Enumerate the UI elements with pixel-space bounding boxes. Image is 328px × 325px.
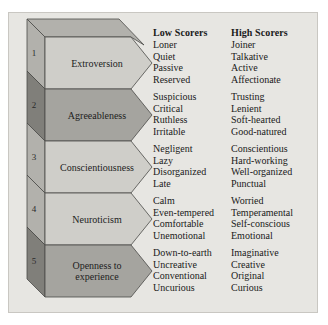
trait-label-agreeableness: Agreeableness xyxy=(49,110,145,121)
trait-word: Original xyxy=(231,270,279,282)
trait-label-neuroticism: Neuroticism xyxy=(49,214,145,225)
trait-word: Well-organized xyxy=(231,166,292,178)
trait-word: Late xyxy=(153,178,206,190)
trait-word: Talkative xyxy=(231,51,281,63)
trait-word: Active xyxy=(231,62,281,74)
low-scorer-list-neuroticism: CalmEven-temperedComfortableUnemotional xyxy=(153,195,214,241)
trait-word: Negligent xyxy=(153,143,206,155)
column-header-low-scorers: Low Scorers xyxy=(153,27,208,38)
trait-word: Quiet xyxy=(153,51,190,63)
trait-number-5: 5 xyxy=(27,256,41,266)
trait-word: Good-natured xyxy=(231,126,287,138)
trait-word: Curious xyxy=(231,282,279,294)
low-scorer-list-agreeableness: SuspiciousCriticalRuthlessIrritable xyxy=(153,91,196,137)
trait-label-conscientiousness: Conscientiousness xyxy=(49,162,145,173)
low-scorer-list-conscientiousness: NegligentLazyDisorganizedLate xyxy=(153,143,206,189)
trait-word: Reserved xyxy=(153,74,190,86)
trait-word: Conventional xyxy=(153,270,212,282)
high-scorer-list-neuroticism: WorriedTemperamentalSelf-consciousEmotio… xyxy=(231,195,293,241)
trait-label-openness-to-experience: Openness toexperience xyxy=(49,260,145,282)
trait-word: Affectionate xyxy=(231,74,281,86)
trait-word: Down-to-earth xyxy=(153,247,212,259)
trait-word: Irritable xyxy=(153,126,196,138)
trait-number-1: 1 xyxy=(27,48,41,58)
trait-word: Worried xyxy=(231,195,293,207)
low-scorer-list-extroversion: LonerQuietPassiveReserved xyxy=(153,39,190,85)
column-header-high-scorers: High Scorers xyxy=(231,27,288,38)
trait-word: Hard-working xyxy=(231,155,292,167)
trait-word: Uncreative xyxy=(153,259,212,271)
trait-word: Calm xyxy=(153,195,214,207)
trait-word: Even-tempered xyxy=(153,207,214,219)
trait-word: Loner xyxy=(153,39,190,51)
trait-word: Uncurious xyxy=(153,282,212,294)
trait-word: Unemotional xyxy=(153,230,214,242)
trait-word: Comfortable xyxy=(153,218,214,230)
trait-word: Joiner xyxy=(231,39,281,51)
high-scorer-list-conscientiousness: ConscientiousHard-workingWell-organizedP… xyxy=(231,143,292,189)
trait-number-4: 4 xyxy=(27,204,41,214)
low-scorer-list-openness-to-experience: Down-to-earthUncreativeConventionalUncur… xyxy=(153,247,212,293)
trait-word: Conscientious xyxy=(231,143,292,155)
trait-word: Creative xyxy=(231,259,279,271)
trait-word: Ruthless xyxy=(153,114,196,126)
trait-word: Soft-hearted xyxy=(231,114,287,126)
trait-label-extroversion: Extroversion xyxy=(49,58,145,69)
high-scorer-list-agreeableness: TrustingLenientSoft-heartedGood-natured xyxy=(231,91,287,137)
trait-word: Lenient xyxy=(231,103,287,115)
trait-number-3: 3 xyxy=(27,152,41,162)
trait-word: Imaginative xyxy=(231,247,279,259)
high-scorer-list-extroversion: JoinerTalkativeActiveAffectionate xyxy=(231,39,281,85)
trait-word: Lazy xyxy=(153,155,206,167)
trait-word: Emotional xyxy=(231,230,293,242)
trait-word: Suspicious xyxy=(153,91,196,103)
trait-word: Punctual xyxy=(231,178,292,190)
trait-word: Temperamental xyxy=(231,207,293,219)
trait-word: Disorganized xyxy=(153,166,206,178)
trait-word: Passive xyxy=(153,62,190,74)
trait-word: Self-conscious xyxy=(231,218,293,230)
trait-number-2: 2 xyxy=(27,100,41,110)
trait-word: Critical xyxy=(153,103,196,115)
high-scorer-list-openness-to-experience: ImaginativeCreativeOriginalCurious xyxy=(231,247,279,293)
big-five-traits-figure: Low Scorers High Scorers 1Extroversion2A… xyxy=(8,12,318,313)
trait-word: Trusting xyxy=(231,91,287,103)
